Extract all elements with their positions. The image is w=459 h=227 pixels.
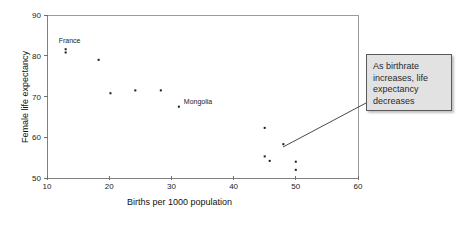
trend-callout-box: As birthrate increases, life expectancy … [366,54,452,111]
x-tick-label: 60 [354,182,363,191]
data-point [269,160,271,162]
data-point [109,92,111,94]
data-point [282,143,284,145]
y-axis-title: Female life expectancy [20,50,30,143]
x-axis-title: Births per 1000 population [127,197,232,207]
y-tick-label: 90 [32,11,41,20]
y-tick-label: 80 [32,52,41,61]
data-point [65,48,67,50]
plot-frame [47,15,358,178]
y-tick-label: 70 [32,93,41,102]
data-points [65,48,297,171]
x-tick-label: 30 [167,182,176,191]
y-tick-label: 50 [32,174,41,183]
point-labels: FranceMongolia [59,37,213,105]
data-point [134,89,136,91]
y-axis-ticks: 5060708090 [32,11,48,183]
y-tick-label: 60 [32,133,41,142]
scatter-plot-canvas: 5060708090 102030405060 FranceMongolia B… [0,0,459,227]
data-point-label: France [59,37,81,44]
chart-figure: 5060708090 102030405060 FranceMongolia B… [0,0,459,227]
data-point [295,161,297,163]
data-point [264,127,266,129]
x-tick-label: 10 [43,182,52,191]
data-point-label: Mongolia [184,98,213,106]
data-point [98,59,100,61]
x-tick-label: 20 [105,182,114,191]
data-point [178,106,180,108]
callout-leader-line [283,103,366,147]
x-tick-label: 40 [229,182,238,191]
data-point [295,169,297,171]
data-point [160,89,162,91]
data-point [264,155,266,157]
x-tick-label: 50 [291,182,300,191]
trend-callout-text: As birthrate increases, life expectancy … [373,61,447,107]
data-point [65,51,67,53]
